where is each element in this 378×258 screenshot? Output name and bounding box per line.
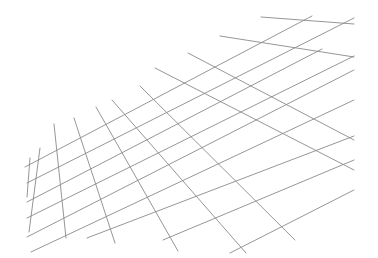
grid-line-rising <box>27 70 354 237</box>
grid-line-cross <box>188 53 354 140</box>
grid-line-rising <box>27 49 322 202</box>
grid-line-rising <box>31 100 354 252</box>
grid-line-cross <box>155 68 354 170</box>
grid-line-rising <box>25 16 312 167</box>
grid-line-rising <box>87 136 354 238</box>
grid-line-rising <box>27 18 354 183</box>
grid-line-cross <box>29 148 40 232</box>
cross-grid-lines <box>27 17 354 253</box>
rising-grid-lines <box>25 16 354 253</box>
grid-line-cross <box>54 124 66 238</box>
grid-line-cross <box>27 158 30 197</box>
grid-line-rising <box>230 190 354 253</box>
grid-line-rising <box>163 160 354 240</box>
perspective-grid <box>0 0 378 258</box>
grid-line-cross <box>74 118 115 243</box>
